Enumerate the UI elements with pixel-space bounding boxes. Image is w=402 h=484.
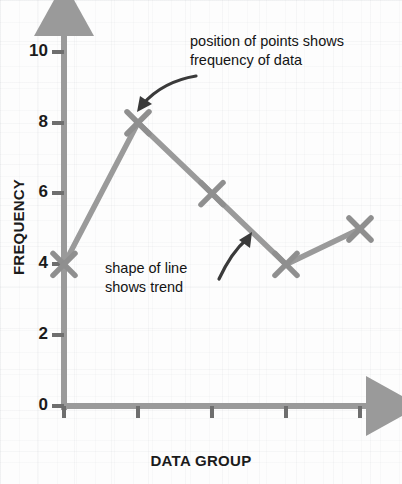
trend-annotation-line-1: shape of line xyxy=(105,259,187,278)
x-axis xyxy=(64,406,372,418)
y-tick-label-8: 8 xyxy=(18,112,48,132)
trend-annotation-line-2: shows trend xyxy=(105,278,183,297)
x-axis-title: DATA GROUP xyxy=(0,452,402,469)
y-tick-label-10: 10 xyxy=(18,41,48,61)
data-point-marker xyxy=(127,112,149,134)
y-axis xyxy=(52,30,64,410)
y-tick-label-0: 0 xyxy=(18,395,48,415)
y-tick-label-2: 2 xyxy=(18,324,48,344)
points-annotation-line-2: frequency of data xyxy=(190,51,302,70)
data-point-marker xyxy=(349,218,371,240)
y-axis-title: FREQUENCY xyxy=(10,179,27,275)
data-point-marker xyxy=(201,183,223,205)
points-annotation-line-1: position of points shows xyxy=(190,32,344,51)
points-annotation-arrow xyxy=(137,76,196,112)
data-point-marker xyxy=(275,253,297,275)
trend-annotation-arrow xyxy=(219,232,252,279)
line-chart-plot xyxy=(0,0,402,484)
